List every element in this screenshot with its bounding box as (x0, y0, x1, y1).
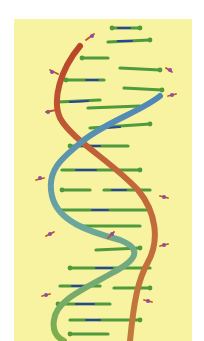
base-pairs (56, 26, 165, 337)
dna-helix-illustration (0, 0, 204, 341)
